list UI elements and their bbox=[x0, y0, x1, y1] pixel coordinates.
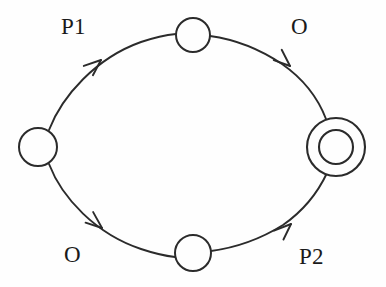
edge-start-to-top-arc bbox=[49, 34, 176, 130]
node-top-state[interactable] bbox=[176, 18, 210, 52]
edge-top-to-final-arc bbox=[210, 36, 326, 119]
edge-label-o-top: O bbox=[291, 15, 308, 38]
state-diagram-svg bbox=[0, 0, 386, 287]
arrowhead-bottom-to-final bbox=[274, 219, 295, 240]
edge-bottom-to-final-arc bbox=[211, 173, 327, 251]
edge-label-o-bottom: O bbox=[64, 243, 81, 266]
node-start-state[interactable] bbox=[19, 128, 57, 166]
arrowhead-start-to-top bbox=[84, 55, 105, 76]
diagram-canvas: P1 O O P2 bbox=[0, 0, 386, 287]
arrowhead-top-to-final bbox=[273, 50, 294, 71]
node-bottom-state[interactable] bbox=[175, 235, 211, 271]
node-final-state[interactable] bbox=[307, 118, 365, 176]
final-state-inner-circle bbox=[319, 130, 353, 164]
edge-label-p2: P2 bbox=[299, 245, 324, 268]
edge-label-p1: P1 bbox=[61, 15, 86, 38]
